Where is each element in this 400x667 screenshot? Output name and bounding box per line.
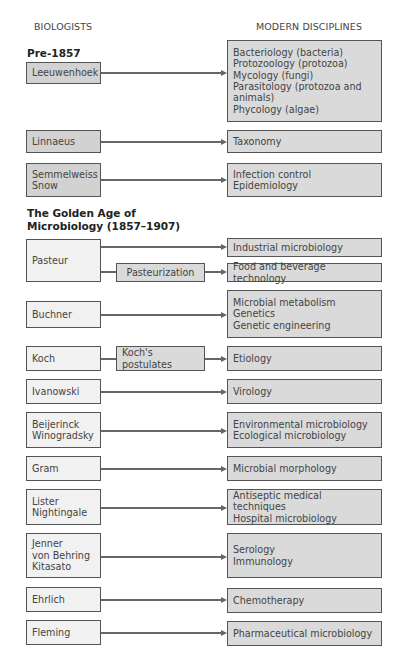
biologist-box-ehrlich: Ehrlich <box>26 587 101 612</box>
discipline-box-microbiology-fields: Bacteriology (bacteria) Protozoology (pr… <box>227 40 382 122</box>
discipline-box-metabolism-genetics: Microbial metabolism Genetics Genetic en… <box>227 290 382 338</box>
connector-line <box>101 556 221 558</box>
connector-line <box>205 271 221 273</box>
discipline-box-antiseptic-hospital: Antiseptic medical techniques Hospital m… <box>227 489 382 525</box>
biologist-box-ivanowski: Ivanowski <box>26 379 101 404</box>
header-biologists: BIOLOGISTS <box>34 21 92 32</box>
section-title-golden-age: The Golden Age of Microbiology (1857–190… <box>27 207 180 233</box>
discipline-box-industrial-microbiology: Industrial microbiology <box>227 238 382 257</box>
connector-line <box>101 179 221 181</box>
biologist-box-jenner-behring-kitasato: Jenner von Behring Kitasato <box>26 533 101 578</box>
biologist-box-beijerinck-winogradsky: Beijerinck Winogradsky <box>26 412 101 448</box>
connector-line <box>101 599 221 601</box>
section-title-pre-1857: Pre-1857 <box>27 47 81 60</box>
connector-line <box>101 430 221 432</box>
biologist-box-pasteur: Pasteur <box>26 239 101 282</box>
discipline-box-virology: Virology <box>227 379 382 404</box>
intermediate-box-pasteurization: Pasteurization <box>116 263 205 282</box>
connector-line <box>101 314 221 316</box>
discipline-box-environmental-ecological: Environmental microbiology Ecological mi… <box>227 412 382 448</box>
discipline-box-etiology: Etiology <box>227 346 382 371</box>
connector-line <box>101 358 116 360</box>
header-modern-disciplines: MODERN DISCIPLINES <box>256 21 362 32</box>
biologist-box-leeuwenhoek: Leeuwenhoek <box>26 62 101 84</box>
connector-line <box>101 468 221 470</box>
connector-line <box>101 271 116 273</box>
discipline-box-microbial-morphology: Microbial morphology <box>227 456 382 481</box>
connector-line <box>101 141 221 143</box>
biologist-box-fleming: Fleming <box>26 620 101 645</box>
biologist-box-lister-nightingale: Lister Nightingale <box>26 489 101 525</box>
connector-line <box>101 391 221 393</box>
biologist-box-buchner: Buchner <box>26 301 101 328</box>
connector-line <box>101 632 221 634</box>
intermediate-box-kochs-postulates: Koch's postulates <box>116 346 205 371</box>
discipline-box-food-beverage: Food and beverage technology <box>227 263 382 282</box>
discipline-box-pharmaceutical: Pharmaceutical microbiology <box>227 621 382 646</box>
biologist-box-linnaeus: Linnaeus <box>26 130 101 153</box>
connector-line <box>101 72 221 74</box>
biologist-box-gram: Gram <box>26 456 101 481</box>
discipline-box-chemotherapy: Chemotherapy <box>227 588 382 613</box>
discipline-box-serology-immunology: Serology Immunology <box>227 533 382 578</box>
connector-line <box>101 507 221 509</box>
discipline-box-taxonomy: Taxonomy <box>227 130 382 153</box>
connector-line <box>205 358 221 360</box>
biologist-box-koch: Koch <box>26 346 101 371</box>
discipline-box-infection-control: Infection control Epidemiology <box>227 163 382 197</box>
biologist-box-semmelweiss-snow: Semmelweiss Snow <box>26 163 101 197</box>
connector-line <box>101 246 221 248</box>
